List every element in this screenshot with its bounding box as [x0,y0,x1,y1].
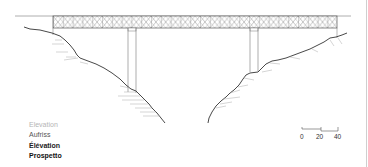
label-prospetto-it: Prospetto [29,151,62,161]
frame-edge [366,0,367,167]
scale-tick-20: 20 [316,133,323,140]
scale-tick-0: 0 [300,133,304,140]
truss-deck [53,16,337,28]
right-terrain-slope [208,33,347,123]
scale-tick-40: 40 [334,133,341,140]
label-elevation-fr: Élévation [29,141,62,151]
pier-left [128,28,136,93]
pier-right [250,28,258,72]
label-aufriss-de: Aufriss [29,130,62,140]
label-elevation-en: Elevation [29,120,62,130]
left-terrain-slope [24,27,165,123]
scale-bar [302,127,338,131]
view-labels: Elevation Aufriss Élévation Prospetto [29,120,62,161]
